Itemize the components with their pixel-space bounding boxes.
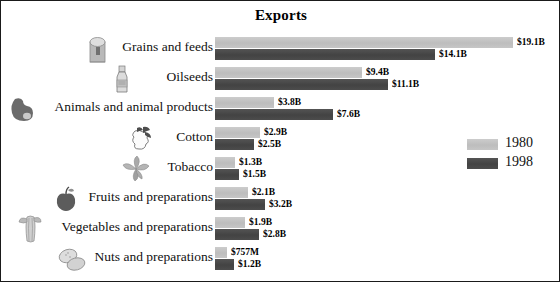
- chart-row: Grains and feeds $19.1B $14.1B: [1, 35, 560, 65]
- bar-1980: [215, 97, 274, 108]
- livestock-meat-icon: [7, 93, 41, 125]
- bar-value-1998: $2.5B: [258, 139, 281, 150]
- bar-1998: [215, 229, 259, 240]
- bar-1998: [215, 259, 234, 270]
- chart-row: Oilseeds $9.4B $11.1B: [1, 65, 560, 95]
- category-label: Fruits and preparations: [89, 189, 213, 205]
- bar-group: $757M $1.2B: [215, 247, 560, 275]
- cotton-boll-icon: [125, 123, 159, 155]
- chart-row: Nuts and preparations $757M $1.2B: [1, 245, 560, 275]
- oil-bottle-icon: [105, 63, 139, 95]
- bar-group: $3.8B $7.6B: [215, 97, 560, 125]
- legend-swatch-1998: [467, 158, 498, 169]
- exports-bar-chart: Exports Grains and feeds $19.1B $14.1B: [0, 0, 560, 282]
- bar-value-1980: $2.1B: [252, 187, 275, 198]
- category-label: Animals and animal products: [54, 99, 213, 115]
- category-label: Grains and feeds: [122, 39, 213, 55]
- chart-row: Vegetables and preparations $1.9B $2.8B: [1, 215, 560, 245]
- bar-value-1998: $3.2B: [269, 199, 292, 210]
- apple-fruit-icon: [49, 183, 83, 215]
- legend-swatch-1980: [467, 139, 498, 150]
- legend-item-1998: 1998: [467, 156, 553, 175]
- bar-group: $1.9B $2.8B: [215, 217, 560, 245]
- bar-1980: [215, 247, 227, 258]
- category-label: Vegetables and preparations: [62, 219, 213, 235]
- bar-1998: [215, 109, 333, 120]
- bar-value-1980: $3.8B: [278, 97, 301, 108]
- bar-value-1980: $1.9B: [249, 217, 272, 228]
- bar-1998: [215, 169, 239, 180]
- chart-legend: 1980 1998: [467, 137, 553, 175]
- bar-1980: [215, 37, 513, 48]
- bar-1980: [215, 187, 248, 198]
- bar-value-1998: $1.2B: [238, 259, 261, 270]
- bar-1998: [215, 199, 265, 210]
- bar-1998: [215, 49, 435, 60]
- bar-value-1998: $7.6B: [337, 109, 360, 120]
- bar-value-1980: $757M: [231, 247, 259, 258]
- category-label: Nuts and preparations: [95, 249, 213, 265]
- nuts-icon: [55, 243, 89, 275]
- bar-value-1980: $2.9B: [264, 127, 287, 138]
- category-label: Tobacco: [167, 159, 213, 175]
- bar-1998: [215, 139, 254, 150]
- bar-1998: [215, 79, 388, 90]
- legend-label-1998: 1998: [505, 154, 533, 170]
- bar-value-1980: $19.1B: [517, 37, 545, 48]
- grain-silo-icon: [79, 33, 113, 65]
- tobacco-leaf-icon: [119, 153, 153, 185]
- bar-value-1980: $9.4B: [366, 67, 389, 78]
- bar-value-1998: $1.5B: [243, 169, 266, 180]
- bar-1980: [215, 127, 260, 138]
- bar-group: $19.1B $14.1B: [215, 37, 560, 65]
- vegetable-stalk-icon: [15, 213, 49, 245]
- chart-row: Animals and animal products $3.8B $7.6B: [1, 95, 560, 125]
- bar-value-1998: $11.1B: [392, 79, 419, 90]
- chart-row: Fruits and preparations $2.1B $3.2B: [1, 185, 560, 215]
- bar-1980: [215, 157, 235, 168]
- bar-1980: [215, 217, 245, 228]
- bar-value-1980: $1.3B: [239, 157, 262, 168]
- bar-group: $9.4B $11.1B: [215, 67, 560, 95]
- category-label: Oilseeds: [167, 69, 214, 85]
- bar-group: $2.1B $3.2B: [215, 187, 560, 215]
- legend-label-1980: 1980: [505, 135, 533, 151]
- bar-value-1998: $2.8B: [263, 229, 286, 240]
- chart-title: Exports: [1, 7, 560, 24]
- bar-1980: [215, 67, 362, 78]
- category-label: Cotton: [176, 129, 213, 145]
- bar-value-1998: $14.1B: [439, 49, 467, 60]
